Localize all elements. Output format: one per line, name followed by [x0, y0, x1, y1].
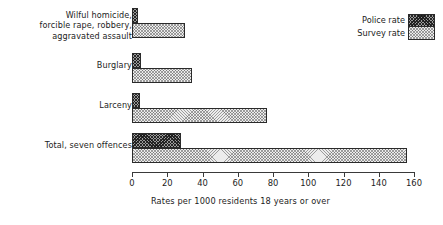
bar-group [132, 93, 414, 123]
police-rate-swatch-icon [408, 14, 435, 27]
category-label-wilful-homicide: Wilful homicide, forcible rape, robbery,… [40, 10, 133, 41]
x-axis-caption: Rates per 1000 residents 18 years or ove… [0, 196, 443, 206]
x-axis-tick [273, 172, 274, 177]
bar-survey-rate [132, 23, 185, 38]
legend-entry-police-rate: Police rate [323, 14, 435, 27]
chart-legend: Police rate Survey rate [323, 14, 435, 40]
x-axis-tick [344, 172, 345, 177]
x-axis-tick [203, 172, 204, 177]
legend-label-police-rate: Police rate [362, 15, 405, 25]
category-label-larceny: Larceny [99, 100, 132, 110]
x-axis-tick-label: 40 [197, 178, 208, 188]
x-axis-tick [414, 172, 415, 177]
x-axis-tick-label: 80 [268, 178, 279, 188]
x-axis-tick [238, 172, 239, 177]
x-axis-caption-text: Rates per 1000 residents 18 years or ove… [151, 196, 330, 206]
x-axis-tick [308, 172, 309, 177]
bar-group [132, 133, 414, 163]
category-label-total-seven-offences: Total, seven offences [45, 140, 132, 150]
x-axis-tick-label: 140 [371, 178, 387, 188]
category-label-burglary: Burglary [97, 60, 132, 70]
bar-group [132, 53, 414, 83]
x-axis-tick-label: 120 [336, 178, 352, 188]
x-axis-tick [379, 172, 380, 177]
x-axis-tick-label: 0 [129, 178, 134, 188]
bar-chart: Wilful homicide, forcible rape, robbery,… [0, 0, 443, 225]
x-axis-tick-label: 100 [300, 178, 316, 188]
bar-police-rate [132, 93, 140, 108]
survey-rate-swatch-icon [408, 27, 435, 40]
bar-police-rate [132, 8, 138, 23]
legend-label-survey-rate: Survey rate [357, 28, 405, 38]
bar-police-rate [132, 53, 141, 68]
bar-survey-rate [132, 148, 407, 163]
x-axis-tick [132, 172, 133, 177]
bar-survey-rate [132, 68, 192, 83]
x-axis-tick-label: 20 [162, 178, 173, 188]
bar-police-rate [132, 133, 181, 148]
legend-entry-survey-rate: Survey rate [323, 27, 435, 40]
bar-survey-rate [132, 108, 267, 123]
x-axis-tick [167, 172, 168, 177]
x-axis-tick-label: 60 [232, 178, 243, 188]
x-axis-tick-label: 160 [406, 178, 422, 188]
